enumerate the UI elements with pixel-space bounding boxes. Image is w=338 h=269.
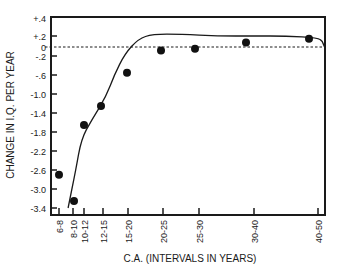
data-points	[55, 35, 313, 205]
x-tick-label: 15-20	[124, 220, 134, 243]
y-tick-label: +.2	[33, 32, 46, 42]
data-point	[70, 197, 78, 205]
data-point	[242, 39, 250, 47]
y-tick-label: -1.0	[30, 90, 46, 100]
y-tick-label: -2.2	[30, 147, 46, 157]
y-tick-label: +.4	[33, 14, 46, 24]
x-tick-label: 12-15	[99, 220, 109, 243]
y-tick-label: -1.8	[30, 128, 46, 138]
x-tick-label: 8-10	[69, 220, 79, 238]
data-point	[305, 35, 313, 43]
x-tick-label: 10-12	[80, 220, 90, 243]
x-axis: 6-88-1010-1212-1515-2020-2525-3030-4040-…	[55, 208, 324, 243]
x-tick-label: 6-8	[55, 220, 65, 233]
data-point	[157, 47, 165, 55]
data-point	[80, 121, 88, 129]
x-tick-label: 40-50	[314, 220, 324, 243]
x-tick-label: 30-40	[250, 220, 260, 243]
x-tick-label: 25-30	[195, 220, 205, 243]
y-tick-label: -3.0	[30, 185, 46, 195]
data-point	[191, 45, 199, 53]
iq-change-chart: +.4+.20-.2-.6-1.0-1.4-1.8-2.2-2.6-3.0-3.…	[0, 0, 338, 269]
y-tick-label: -.6	[35, 71, 46, 81]
y-axis: +.4+.20-.2-.6-1.0-1.4-1.8-2.2-2.6-3.0-3.…	[30, 14, 57, 214]
fitted-curve	[68, 34, 325, 208]
data-point	[55, 171, 63, 179]
y-tick-label: -2.6	[30, 166, 46, 176]
y-axis-label: CHANGE IN I.Q. PER YEAR	[5, 51, 16, 179]
y-tick-label: -1.4	[30, 109, 46, 119]
x-tick-label: 20-25	[159, 220, 169, 243]
y-tick-label: -.2	[35, 52, 46, 62]
data-point	[97, 102, 105, 110]
x-axis-label: C.A. (INTERVALS IN YEARS)	[124, 253, 257, 264]
y-tick-label: -3.4	[30, 204, 46, 214]
data-point	[123, 69, 131, 77]
